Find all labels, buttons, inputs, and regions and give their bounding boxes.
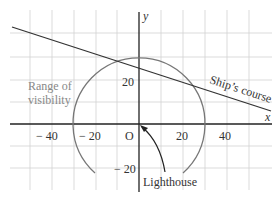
origin-label: O <box>125 129 134 143</box>
y-tick-20: 20 <box>122 75 134 89</box>
x-axis-label: x <box>264 110 271 124</box>
y-axis-label: y <box>142 9 149 23</box>
x-tick-40: 40 <box>219 129 231 143</box>
x-tick-neg20: − 20 <box>79 129 101 143</box>
x-tick-neg40: − 40 <box>36 129 58 143</box>
lighthouse-label: Lighthouse <box>143 175 197 189</box>
range-label-line2: visibility <box>28 93 71 107</box>
x-tick-20: 20 <box>176 129 188 143</box>
lighthouse-arrow <box>142 127 165 172</box>
y-tick-neg20: − 20 <box>114 162 136 176</box>
range-label-line1: Range of <box>28 79 72 93</box>
coordinate-diagram: y x O − 40 − 20 20 40 20 − 20 Range of v… <box>0 0 277 198</box>
